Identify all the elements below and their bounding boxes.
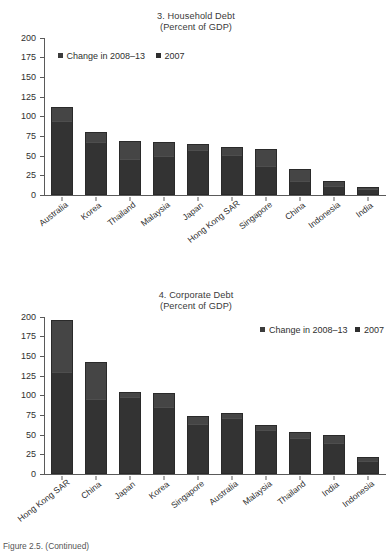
y-axis-tick-mark [40, 195, 44, 196]
x-axis-tick-label: Japan [113, 480, 137, 502]
x-axis-slot: Hong Kong SAR [45, 479, 79, 480]
x-axis-tick-label: China [80, 480, 103, 501]
y-axis-tick-mark [40, 116, 44, 117]
bar-slot [249, 38, 283, 195]
bar-australia [51, 107, 73, 195]
y-axis-labels-corporate: 0255075100125150175200 [0, 317, 40, 475]
bar-segment-2007 [188, 424, 208, 473]
bar-slot [317, 317, 351, 474]
chart-subtitle-corporate: (Percent of GDP) [0, 301, 392, 312]
x-axis-slot: China [283, 200, 317, 201]
x-axis-labels-corporate: Hong Kong SARChinaJapanKoreaSingaporeAus… [45, 479, 385, 480]
x-axis-tick-label: Thailand [106, 200, 138, 227]
bar-india [323, 435, 345, 474]
bar-segment-2007 [290, 181, 310, 194]
bar-segment-change [324, 436, 344, 443]
y-axis-tick-label: 0 [31, 469, 36, 478]
chart-title-household: 3. Household Debt [0, 11, 392, 22]
bar-slot [113, 38, 147, 195]
y-axis-tick-mark [40, 376, 44, 377]
x-axis-tick-label: Australia [38, 200, 70, 228]
y-axis-tick-mark [40, 77, 44, 78]
y-axis-tick-mark [40, 336, 44, 337]
bar-segment-2007 [256, 430, 276, 473]
x-axis-tick-label: China [284, 201, 307, 222]
bar-segment-2007 [154, 156, 174, 194]
x-axis-slot: Singapore [181, 479, 215, 480]
bar-slot [351, 38, 385, 195]
x-axis-slot: Japan [181, 200, 215, 201]
bar-slot [79, 317, 113, 474]
x-axis-slot: Indonesia [351, 479, 385, 480]
panel-corporate-debt: 4. Corporate Debt (Percent of GDP) Chang… [0, 278, 392, 552]
bars-container-household [45, 38, 385, 195]
bar-segment-change [86, 363, 106, 399]
bar-malaysia [153, 142, 175, 195]
bar-segment-change [154, 143, 174, 156]
chart-subtitle-household: (Percent of GDP) [0, 22, 392, 33]
y-axis-tick-label: 0 [31, 190, 36, 199]
bar-slot [283, 317, 317, 474]
y-axis-tick-mark [40, 415, 44, 416]
bar-thailand [289, 432, 311, 474]
x-axis-slot: Korea [147, 479, 181, 480]
bar-slot [113, 317, 147, 474]
bar-korea [153, 393, 175, 474]
bar-slot [79, 38, 113, 195]
bar-segment-2007 [324, 186, 344, 194]
bar-singapore [255, 149, 277, 195]
bar-india [357, 187, 379, 195]
bar-segment-change [154, 394, 174, 407]
y-axis-tick-label: 100 [21, 391, 36, 400]
bar-slot [317, 38, 351, 195]
bar-segment-2007 [222, 418, 242, 473]
bar-slot [181, 317, 215, 474]
plot-area-corporate: Change in 2008–13 2007 02550751001251501… [0, 317, 392, 492]
x-axis-tick-label: Singapore [170, 479, 206, 510]
bar-segment-2007 [222, 155, 242, 194]
bar-segment-change [188, 417, 208, 424]
x-axis-line-household [44, 195, 386, 196]
x-axis-slot: Hong Kong SAR [215, 200, 249, 201]
x-axis-slot: Singapore [249, 200, 283, 201]
x-axis-tick-label: India [354, 201, 374, 220]
bar-segment-2007 [86, 142, 106, 194]
bar-slot [181, 38, 215, 195]
bar-segment-2007 [120, 159, 140, 193]
x-axis-tick-label: Indonesia [307, 200, 342, 230]
x-axis-slot: India [351, 200, 385, 201]
y-axis-tick-label: 150 [21, 352, 36, 361]
x-axis-slot: Korea [79, 200, 113, 201]
y-axis-tick-mark [40, 454, 44, 455]
bar-korea [85, 132, 107, 195]
bar-thailand [119, 141, 141, 195]
bar-segment-change [52, 108, 72, 121]
y-axis-tick-label: 50 [26, 151, 36, 160]
bar-slot [283, 38, 317, 195]
bar-japan [187, 144, 209, 195]
y-axis-tick-label: 75 [26, 410, 36, 419]
bar-segment-2007 [52, 121, 72, 194]
y-axis-tick-mark [40, 435, 44, 436]
x-axis-tick-label: Singapore [238, 200, 274, 231]
bar-segment-2007 [358, 461, 378, 473]
bar-hong-kong-sar [51, 320, 73, 474]
x-axis-tick-label: Malaysia [139, 200, 171, 228]
y-axis-tick-mark [40, 474, 44, 475]
x-axis-tick-label: Thailand [276, 479, 308, 506]
x-axis-tick-label: Japan [181, 201, 205, 223]
y-axis-labels-household: 0255075100125150175200 [0, 38, 40, 196]
chart-title-corporate: 4. Corporate Debt [0, 290, 392, 301]
y-axis-tick-label: 125 [21, 92, 36, 101]
bar-singapore [187, 416, 209, 474]
x-axis-slot: India [317, 479, 351, 480]
bar-segment-2007 [256, 166, 276, 193]
x-axis-line-corporate [44, 474, 386, 475]
x-axis-slot: Malaysia [249, 479, 283, 480]
bar-hong-kong-sar [221, 147, 243, 195]
y-axis-tick-label: 100 [21, 112, 36, 121]
bar-slot [147, 317, 181, 474]
bar-segment-change [86, 133, 106, 142]
figure-note: Figure 2.5. (Continued) [3, 541, 89, 551]
bar-segment-change [52, 321, 72, 372]
